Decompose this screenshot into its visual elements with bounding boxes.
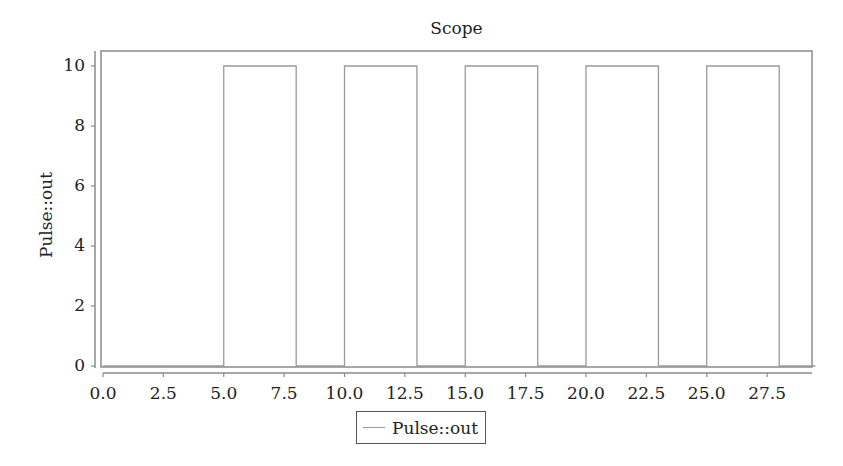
x-tick-label: 15.0 xyxy=(440,383,490,403)
legend-label: Pulse::out xyxy=(392,418,478,438)
x-tick-label: 12.5 xyxy=(380,383,430,403)
x-tick-label: 10.0 xyxy=(320,383,370,403)
x-tick-label: 7.5 xyxy=(259,383,309,403)
x-tick-label: 25.0 xyxy=(682,383,732,403)
y-tick-label: 0 xyxy=(45,355,85,375)
y-tick-label: 2 xyxy=(45,295,85,315)
legend-swatch-icon xyxy=(363,427,385,428)
x-tick-label: 22.5 xyxy=(621,383,671,403)
x-tick-label: 5.0 xyxy=(199,383,249,403)
series-line xyxy=(103,66,815,366)
x-tick-label: 17.5 xyxy=(501,383,551,403)
y-tick-label: 10 xyxy=(45,55,85,75)
y-tick-label: 6 xyxy=(45,175,85,195)
x-tick-label: 2.5 xyxy=(138,383,188,403)
y-tick-label: 8 xyxy=(45,115,85,135)
legend: Pulse::out xyxy=(356,411,486,444)
x-tick-label: 20.0 xyxy=(561,383,611,403)
x-tick-label: 27.5 xyxy=(742,383,792,403)
y-tick-label: 4 xyxy=(45,235,85,255)
plot-frame xyxy=(101,51,812,367)
x-tick-label: 0.0 xyxy=(78,383,128,403)
